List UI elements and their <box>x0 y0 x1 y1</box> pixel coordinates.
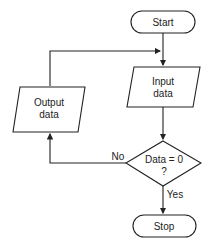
input-label-line1: Input <box>152 76 174 87</box>
output-to-input-arrow <box>50 51 160 86</box>
input-data-node <box>127 67 200 107</box>
start-label: Start <box>152 17 173 28</box>
yes-label: Yes <box>167 189 183 200</box>
input-label-line2: data <box>153 88 173 99</box>
decision-label-line1: Data = 0 <box>145 154 184 165</box>
flowchart: Start Input data Output data Data = 0 ? … <box>0 0 213 249</box>
output-label-line2: data <box>39 109 59 120</box>
no-label: No <box>112 151 125 162</box>
output-label-line1: Output <box>34 97 64 108</box>
decision-label-line2: ? <box>161 166 167 177</box>
stop-label: Stop <box>154 221 175 232</box>
